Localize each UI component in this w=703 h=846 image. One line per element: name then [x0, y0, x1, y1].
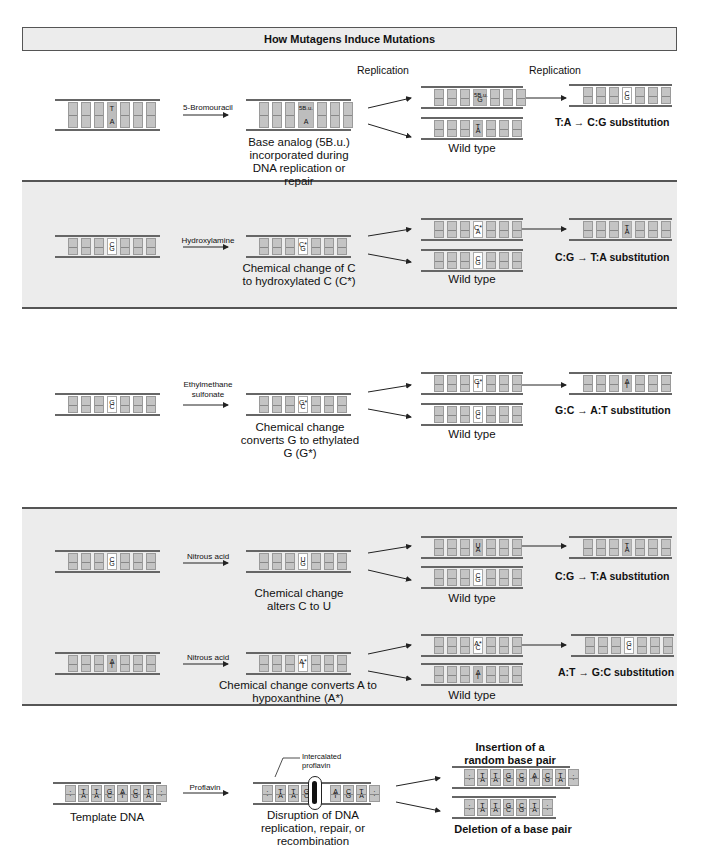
base-pair: TA	[78, 785, 89, 802]
mutagen-label-2: Hydroxylamine	[178, 236, 238, 245]
dna-wildtype-2: CG	[421, 249, 523, 272]
dna-final-4: TA	[569, 536, 672, 559]
replication-label-1: Replication	[357, 64, 409, 76]
result-4: C:G → T:A substitution	[555, 570, 670, 582]
base-pair: TA	[477, 769, 488, 786]
dna-original-4: CG	[55, 550, 160, 573]
base-pair: GC	[503, 799, 514, 816]
dna-wildtype-5: AT	[421, 663, 523, 686]
dna-insertion: ··TATAGCCGATCGTA··	[452, 766, 570, 789]
dna-modified-3: G*C	[246, 393, 351, 416]
dna-mutant-4: UA	[421, 536, 523, 559]
dna-modified-5: A*T	[246, 652, 351, 675]
dna-modified-2: C*G	[246, 235, 351, 258]
base-pair: ··	[65, 785, 76, 802]
result-3: G:C → A:T substitution	[555, 404, 671, 416]
dna-wildtype-4: CG	[421, 566, 523, 589]
dna-original-1: TA	[55, 99, 160, 131]
wild-type-label-3: Wild type	[421, 428, 523, 441]
mutagen-label-4: Nitrous acid	[178, 552, 238, 561]
dna-original-5: AT	[55, 652, 160, 675]
wild-type-label-5: Wild type	[421, 689, 523, 702]
base-pair: GC	[503, 769, 514, 786]
base-pair: CG	[130, 785, 141, 802]
insertion-title: Insertion of a random base pair	[455, 741, 565, 767]
template-caption: Template DNA	[53, 811, 161, 824]
replication-label-2: Replication	[529, 64, 581, 76]
caption-5: Chemical change converts A to hypoxanthi…	[218, 679, 378, 705]
proflavin-intercalator-icon	[308, 776, 322, 810]
wild-type-label-2: Wild type	[421, 273, 523, 286]
wild-type-label-4: Wild type	[421, 592, 523, 605]
dna-mutant-2: C*A	[421, 218, 523, 241]
base-pair: TA	[490, 769, 501, 786]
base-pair: TA	[555, 769, 566, 786]
dna-template: ··TATAGCATCGTA··	[53, 782, 161, 805]
base-pair: ··	[156, 785, 167, 802]
base-pair: ··	[542, 799, 553, 816]
base-pair: AT	[529, 769, 540, 786]
base-pair: TA	[143, 785, 154, 802]
caption-2: Chemical change of C to hydroxylated C (…	[240, 262, 358, 288]
base-pair: CG	[516, 799, 527, 816]
result-5: A:T → G:C substitution	[558, 666, 674, 678]
dna-final-3: AT	[569, 372, 672, 395]
mutagen-label-1: 5-Bromouracil	[178, 103, 238, 112]
base-pair: TA	[91, 785, 102, 802]
dna-modified-4: UG	[246, 550, 351, 573]
result-2: C:G → T:A substitution	[555, 251, 670, 263]
base-pair: TA	[490, 799, 501, 816]
dna-original-2: CG	[55, 235, 160, 258]
dna-modified-1: 5B.u.A	[246, 99, 351, 131]
base-pair: AT	[330, 785, 341, 802]
dna-wildtype-1: TA	[421, 117, 523, 140]
base-pair: TA	[529, 799, 540, 816]
mutagen-label-proflavin: Proflavin	[180, 783, 230, 792]
result-1: T:A → C:G substitution	[555, 116, 670, 128]
base-pair: TA	[356, 785, 367, 802]
base-pair: CG	[516, 769, 527, 786]
dna-mutant-5: A*C	[421, 634, 523, 657]
mutagen-label-3: Ethylmethane sulfonate	[180, 380, 236, 400]
dna-final-5: GC	[571, 634, 674, 657]
base-pair: ··	[464, 799, 475, 816]
base-pair: TA	[477, 799, 488, 816]
base-pair: CG	[343, 785, 354, 802]
base-pair: TA	[288, 785, 299, 802]
dna-wildtype-3: GC	[421, 403, 523, 426]
base-pair: AT	[117, 785, 128, 802]
intercalated-label: Intercalated proflavin	[302, 752, 344, 770]
base-pair: CG	[542, 769, 553, 786]
mutagen-label-5: Nitrous acid	[178, 653, 238, 662]
dna-final-1: CG	[569, 84, 672, 107]
base-pair: ··	[262, 785, 273, 802]
caption-3: Chemical change converts G to ethylated …	[238, 421, 362, 460]
caption-4: Chemical change alters C to U	[250, 587, 348, 613]
base-pair: GC	[104, 785, 115, 802]
dna-mutant-1: 5B.u.G	[421, 86, 523, 109]
disruption-caption: Disruption of DNA replication, repair, o…	[243, 809, 383, 846]
dna-mutant-3: G*T	[421, 372, 523, 395]
caption-1: Base analog (5B.u.) incorporated during …	[240, 136, 358, 188]
dna-final-2: TA	[569, 218, 672, 241]
dna-deletion: ··TATAGCCGTA··	[452, 796, 556, 819]
base-pair: TA	[275, 785, 286, 802]
base-pair: ··	[369, 785, 380, 802]
base-pair: ··	[568, 769, 579, 786]
wild-type-label-1: Wild type	[421, 142, 523, 155]
deletion-title: Deletion of a base pair	[443, 823, 583, 836]
dna-original-3: GC	[55, 393, 160, 416]
base-pair: ··	[464, 769, 475, 786]
